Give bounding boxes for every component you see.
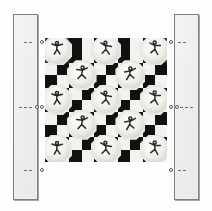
connector-node-secondary[interactable] — [175, 105, 179, 109]
figure-dancer-turning — [115, 60, 145, 90]
connector-bottom-right[interactable] — [0, 170, 212, 171]
connector-top-right[interactable] — [0, 42, 212, 43]
figure-dancer-running — [91, 85, 121, 115]
connector-node[interactable] — [169, 40, 173, 44]
figure-medallion[interactable] — [67, 60, 97, 90]
figure-medallion[interactable] — [67, 110, 97, 140]
connector-node[interactable] — [169, 105, 173, 109]
figure-medallion[interactable] — [115, 60, 145, 90]
connector-dash — [178, 170, 188, 171]
figure-medallion[interactable] — [115, 110, 145, 140]
connector-dash — [178, 42, 188, 43]
checkerboard-panel[interactable] — [45, 38, 167, 162]
figure-canvas — [0, 0, 212, 211]
connector-node[interactable] — [169, 168, 173, 172]
connector-dash — [180, 107, 194, 108]
figure-medallion[interactable] — [91, 85, 121, 115]
figure-dancer-kneeling — [67, 60, 97, 90]
figure-dancer-spinning — [115, 110, 145, 140]
connector-middle-right[interactable] — [0, 107, 212, 108]
figure-dancer-bowing — [67, 110, 97, 140]
